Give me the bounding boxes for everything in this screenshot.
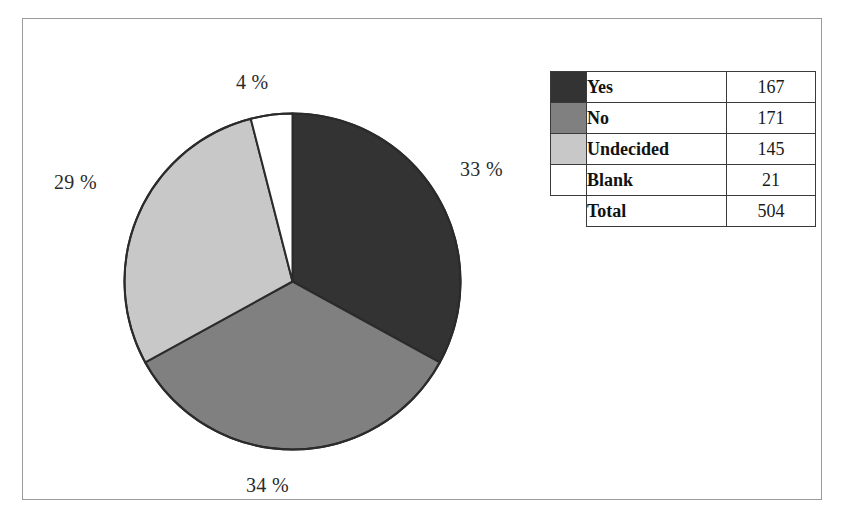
legend-label-total: Total [587,196,727,227]
legend-label-no: No [587,103,727,134]
legend-label-undecided: Undecided [587,134,727,165]
legend-value-yes: 167 [727,72,816,103]
table-row: Undecided 145 [551,134,816,165]
pie-label-no-percent: 34 % [246,474,289,497]
legend-table: Yes 167 No 171 Undecided 145 Blank 21 To… [550,71,816,227]
legend-value-blank: 21 [727,165,816,196]
legend-value-undecided: 145 [727,134,816,165]
table-row: Yes 167 [551,72,816,103]
pie-label-yes-percent: 33 % [460,158,503,181]
table-row: No 171 [551,103,816,134]
legend-value-total: 504 [727,196,816,227]
legend-swatch-no [551,103,587,134]
legend-label-blank: Blank [587,165,727,196]
pie-chart [122,111,463,452]
legend-swatch-undecided [551,134,587,165]
legend-value-no: 171 [727,103,816,134]
legend-swatch-yes [551,72,587,103]
pie-chart-svg [122,111,463,452]
legend-label-yes: Yes [587,72,727,103]
legend-swatch-total-empty [551,196,587,227]
figure-frame: 4 % 33 % 29 % 34 % Yes 167 No 171 Undeci… [22,18,822,500]
table-row-total: Total 504 [551,196,816,227]
pie-label-blank-percent: 4 % [236,71,269,94]
legend-swatch-blank [551,165,587,196]
table-row: Blank 21 [551,165,816,196]
pie-label-undecided-percent: 29 % [54,171,97,194]
